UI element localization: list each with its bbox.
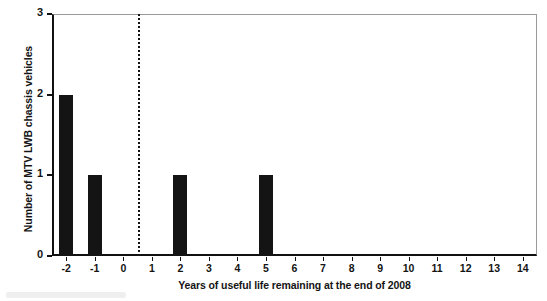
- x-tick-mark: [437, 257, 438, 261]
- x-tick-mark: [523, 257, 524, 261]
- x-tick-label: 0: [108, 262, 138, 274]
- x-tick-label: -2: [51, 262, 81, 274]
- x-tick-mark: [123, 257, 124, 261]
- x-tick-mark: [266, 257, 267, 261]
- y-axis-title: Number of MTV LWB chassis vehicles: [22, 19, 34, 259]
- x-tick-mark: [380, 257, 381, 261]
- chart-figure: Number of MTV LWB chassis vehicles 0123 …: [0, 0, 547, 301]
- plot-area: [52, 14, 537, 256]
- y-tick-label: 2: [21, 87, 43, 99]
- x-tick-label: 1: [137, 262, 167, 274]
- x-tick-label: 4: [222, 262, 252, 274]
- y-tick-label: 3: [21, 6, 43, 18]
- bar: [88, 175, 102, 256]
- x-tick-mark: [95, 257, 96, 261]
- x-tick-mark: [237, 257, 238, 261]
- x-tick-mark: [323, 257, 324, 261]
- x-tick-mark: [209, 257, 210, 261]
- y-tick-mark: [47, 174, 52, 176]
- bar: [59, 95, 73, 256]
- x-tick-mark: [180, 257, 181, 261]
- x-tick-label: 6: [280, 262, 310, 274]
- x-tick-mark: [409, 257, 410, 261]
- x-tick-mark: [295, 257, 296, 261]
- x-tick-mark: [152, 257, 153, 261]
- x-axis-title: Years of useful life remaining at the en…: [52, 279, 537, 291]
- bar: [173, 175, 187, 256]
- x-tick-label: 3: [194, 262, 224, 274]
- x-tick-mark: [494, 257, 495, 261]
- scan-artifact: [6, 292, 126, 298]
- x-tick-label: 9: [365, 262, 395, 274]
- y-tick-label: 1: [21, 167, 43, 179]
- x-tick-mark: [466, 257, 467, 261]
- y-tick-label: 0: [21, 248, 43, 260]
- bar: [259, 175, 273, 256]
- x-tick-label: 13: [479, 262, 509, 274]
- y-tick-mark: [47, 13, 52, 15]
- x-tick-label: 2: [165, 262, 195, 274]
- x-tick-label: 5: [251, 262, 281, 274]
- reference-line: [138, 14, 140, 256]
- x-tick-mark: [352, 257, 353, 261]
- y-tick-mark: [47, 255, 52, 257]
- x-tick-label: 7: [308, 262, 338, 274]
- x-tick-label: 10: [394, 262, 424, 274]
- x-tick-label: 8: [337, 262, 367, 274]
- x-tick-label: -1: [80, 262, 110, 274]
- x-tick-label: 14: [508, 262, 538, 274]
- x-tick-label: 11: [422, 262, 452, 274]
- y-tick-mark: [47, 94, 52, 96]
- x-tick-mark: [66, 257, 67, 261]
- x-tick-label: 12: [451, 262, 481, 274]
